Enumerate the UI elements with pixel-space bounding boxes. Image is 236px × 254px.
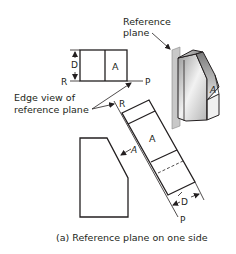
- front-view-face-label: A: [130, 145, 137, 155]
- aux-view-hidden-line: [158, 161, 183, 173]
- reference-plane-diagram: Reference plane A A R P D Edg: [0, 0, 236, 254]
- aux-view-edge: [151, 150, 177, 162]
- pictorial-face-label: A: [209, 85, 216, 95]
- aux-reference-line: [114, 101, 178, 217]
- top-ref-label-p: P: [145, 77, 151, 87]
- top-ref-label-r: R: [61, 77, 67, 87]
- aux-depth-arrow: [191, 194, 199, 197]
- top-view-face-label: A: [112, 61, 119, 72]
- front-view-face-arrow: [121, 149, 131, 155]
- aux-ref-label-r: R: [119, 99, 125, 109]
- pictorial-view: A: [172, 47, 219, 129]
- dimension-extension-line: [178, 192, 182, 196]
- front-view: A: [80, 138, 137, 217]
- svg-text:plane: plane: [123, 27, 150, 38]
- aux-view-edge: [128, 111, 155, 124]
- svg-text:Reference: Reference: [123, 16, 171, 27]
- top-view-outline: [80, 50, 127, 81]
- reference-plane-leader-arrow: [152, 33, 170, 49]
- aux-ref-label-p: P: [180, 215, 186, 225]
- front-view-outline: [80, 138, 128, 217]
- reference-plane-label: Reference plane: [123, 16, 171, 38]
- edge-view-label: Edge view of reference plane: [14, 92, 89, 115]
- dimension-extension-line: [195, 182, 204, 200]
- top-view: A R P D: [61, 50, 151, 87]
- aux-depth-label: D: [181, 197, 188, 207]
- top-depth-label: D: [71, 60, 78, 70]
- svg-text:reference plane: reference plane: [14, 104, 89, 115]
- aux-view-face-label: A: [149, 133, 156, 144]
- svg-text:Edge view of: Edge view of: [14, 92, 76, 103]
- aux-depth-arrow: [173, 202, 180, 205]
- figure-caption: (a) Reference plane on one side: [56, 232, 208, 243]
